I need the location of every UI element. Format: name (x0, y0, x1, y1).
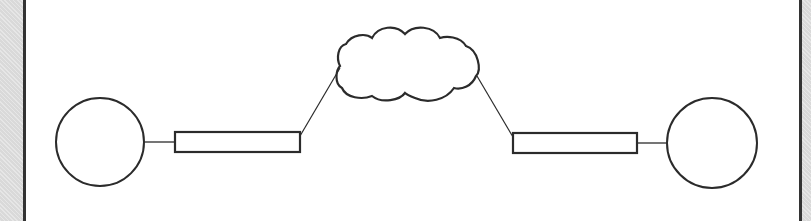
network-cloud (337, 28, 479, 101)
network-diagram (0, 0, 811, 221)
edge-left-device-to-cloud (300, 68, 340, 136)
left-link-device (175, 132, 300, 152)
right-link-device (513, 133, 637, 153)
left-endpoint-node (56, 98, 144, 186)
edge-cloud-to-right-device (477, 76, 513, 137)
right-endpoint-node (667, 98, 757, 188)
